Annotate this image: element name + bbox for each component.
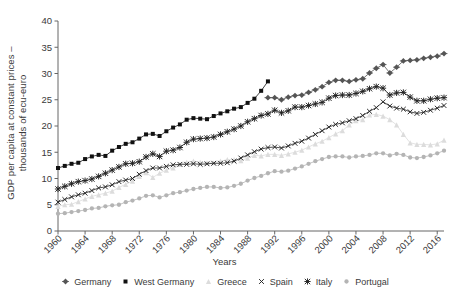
- data-point: [333, 154, 337, 158]
- data-point: [313, 141, 318, 146]
- data-point: [339, 92, 345, 98]
- series-line: [58, 114, 444, 206]
- data-point: [313, 132, 318, 137]
- data-point: [252, 97, 256, 101]
- data-point: [320, 128, 325, 133]
- data-point: [76, 209, 80, 213]
- data-point: [124, 142, 128, 146]
- data-point: [110, 149, 114, 153]
- data-point: [345, 279, 349, 283]
- data-point: [327, 155, 331, 159]
- data-point: [76, 161, 80, 165]
- triangle-marker-icon: [203, 276, 214, 287]
- data-point: [373, 84, 379, 90]
- data-point: [380, 113, 385, 118]
- data-point: [69, 210, 73, 214]
- data-point: [218, 186, 222, 190]
- data-point: [212, 185, 216, 189]
- data-point: [259, 279, 264, 284]
- data-point: [286, 151, 291, 156]
- data-point: [197, 136, 203, 142]
- data-point: [117, 145, 121, 149]
- data-point: [333, 92, 339, 98]
- data-point: [225, 109, 229, 113]
- data-point: [305, 102, 311, 108]
- data-point: [56, 166, 60, 170]
- data-point: [163, 148, 169, 154]
- data-point: [401, 132, 406, 137]
- data-point: [326, 95, 332, 101]
- chart-container: GDP per capita at constant prices – thou…: [0, 0, 449, 308]
- x-tick-label: 2016: [420, 233, 443, 256]
- data-point: [116, 185, 121, 190]
- legend-label: Greece: [217, 277, 247, 287]
- data-point: [388, 153, 392, 157]
- data-point: [299, 139, 304, 144]
- legend-item-portugal[interactable]: Portugal: [341, 276, 389, 287]
- data-point: [285, 108, 291, 114]
- data-point: [62, 183, 68, 189]
- data-point: [394, 152, 398, 156]
- square-marker-icon: [120, 276, 131, 287]
- data-point: [232, 184, 236, 188]
- diamond-marker-icon: [60, 276, 71, 287]
- data-point: [89, 194, 94, 199]
- x-tick-label: 1992: [258, 233, 281, 256]
- data-point: [266, 79, 270, 83]
- data-point: [83, 157, 87, 161]
- series-line: [58, 81, 268, 168]
- x-tick-label: 1972: [122, 233, 145, 256]
- data-point: [129, 160, 135, 166]
- data-point: [110, 203, 114, 207]
- data-point: [219, 111, 223, 115]
- data-point: [415, 156, 419, 160]
- data-point: [435, 106, 440, 111]
- data-point: [96, 192, 101, 197]
- y-tick-label: 0: [47, 225, 52, 236]
- data-point: [212, 114, 216, 118]
- data-point: [407, 94, 413, 100]
- legend-item-greece[interactable]: Greece: [203, 276, 247, 287]
- series-line: [58, 151, 444, 214]
- data-point: [300, 164, 304, 168]
- data-point: [170, 147, 176, 153]
- data-point: [340, 154, 344, 158]
- data-point: [144, 132, 148, 136]
- data-point: [102, 170, 108, 176]
- data-point: [306, 144, 311, 149]
- data-point: [224, 129, 230, 135]
- legend-item-germany[interactable]: Germany: [60, 276, 111, 287]
- legend-item-spain[interactable]: Spain: [256, 276, 293, 287]
- data-point: [292, 104, 298, 110]
- legend-label: Germany: [74, 277, 111, 287]
- data-point: [381, 99, 386, 104]
- data-point: [442, 103, 447, 108]
- data-point: [211, 134, 217, 140]
- data-point: [251, 116, 257, 122]
- data-point: [178, 190, 182, 194]
- y-tick-label: 35: [41, 42, 52, 53]
- data-point: [245, 178, 249, 182]
- data-point: [123, 161, 129, 167]
- data-point: [380, 85, 386, 91]
- x-tick-label: 1976: [150, 233, 173, 256]
- data-point: [185, 118, 189, 122]
- data-point: [143, 154, 149, 160]
- data-point: [293, 141, 298, 146]
- data-point: [435, 151, 439, 155]
- data-point: [239, 182, 243, 186]
- data-point: [103, 154, 107, 158]
- data-point: [198, 186, 202, 190]
- legend-label: Spain: [270, 277, 293, 287]
- data-point: [259, 89, 263, 93]
- legend-item-italy[interactable]: Italy: [302, 276, 333, 287]
- data-point: [90, 206, 94, 210]
- data-point: [387, 117, 392, 122]
- legend-label: West Germany: [134, 277, 194, 287]
- data-point: [353, 90, 359, 96]
- legend-item-west-germany[interactable]: West Germany: [120, 276, 194, 287]
- data-point: [171, 191, 175, 195]
- data-point: [360, 88, 366, 94]
- data-point: [75, 179, 81, 185]
- data-point: [117, 203, 121, 207]
